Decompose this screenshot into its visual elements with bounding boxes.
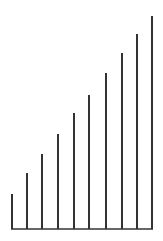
bars <box>12 16 152 229</box>
stem-chart <box>0 0 163 241</box>
